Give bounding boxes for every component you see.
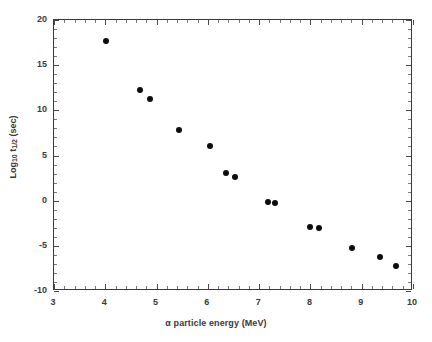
x-axis-minor-tick [75,286,76,289]
x-axis-major-tick [105,284,106,289]
y-axis-minor-tick [54,183,57,184]
y-axis-minor-tick [54,137,57,138]
y-axis-minor-tick [408,174,411,175]
y-axis-major-tick [406,201,411,202]
x-axis-minor-tick [372,286,373,289]
x-axis-minor-tick [290,20,291,23]
x-axis-minor-tick [75,20,76,23]
x-axis-minor-tick [239,286,240,289]
y-axis-minor-tick [408,38,411,39]
data-point [207,143,213,149]
x-axis-minor-tick [280,20,281,23]
x-axis-tick-label: 5 [153,297,158,307]
x-axis-minor-tick [187,20,188,23]
y-axis-minor-tick [408,119,411,120]
x-axis-minor-tick [269,20,270,23]
y-axis-major-tick [54,20,59,21]
x-axis-minor-tick [116,20,117,23]
x-axis-major-tick [310,284,311,289]
y-axis-tick-label: 20 [15,14,47,24]
x-axis-minor-tick [146,20,147,23]
x-axis-minor-tick [218,286,219,289]
y-axis-tick-label: 5 [15,150,47,160]
x-axis-major-tick [208,20,209,25]
x-axis-minor-tick [85,286,86,289]
y-axis-major-tick [54,201,59,202]
data-point [103,38,109,44]
x-axis-minor-tick [351,20,352,23]
y-axis-minor-tick [54,83,57,84]
y-axis-minor-tick [408,219,411,220]
y-axis-minor-tick [408,74,411,75]
y-axis-major-tick [54,110,59,111]
y-axis-title: Log10 t1/2 (sec) [8,87,18,207]
y-axis-minor-tick [54,119,57,120]
y-axis-title-suffix: (sec) [8,115,18,139]
y-axis-major-tick [54,156,59,157]
y-axis-minor-tick [54,192,57,193]
y-axis-minor-tick [54,128,57,129]
x-axis-minor-tick [177,20,178,23]
data-point [147,96,153,102]
x-axis-major-tick [413,20,414,25]
data-point [232,174,238,180]
y-axis-minor-tick [408,101,411,102]
data-point [137,87,143,93]
x-axis-minor-tick [331,20,332,23]
y-axis-minor-tick [54,174,57,175]
plot-area [53,19,412,290]
y-axis-minor-tick [408,137,411,138]
x-axis-minor-tick [64,286,65,289]
x-axis-minor-tick [392,286,393,289]
x-axis-tick-label: 6 [204,297,209,307]
y-axis-minor-tick [408,56,411,57]
y-axis-minor-tick [408,29,411,30]
x-axis-minor-tick [64,20,65,23]
x-axis-minor-tick [321,20,322,23]
x-axis-major-tick [362,20,363,25]
data-point [307,224,313,230]
y-axis-major-tick [406,110,411,111]
y-axis-minor-tick [54,282,57,283]
y-axis-tick-label: 0 [15,195,47,205]
x-axis-minor-tick [85,20,86,23]
x-axis-minor-tick [126,286,127,289]
y-axis-minor-tick [408,255,411,256]
y-axis-major-tick [406,291,411,292]
x-axis-tick-label: 10 [407,297,417,307]
x-axis-tick-label: 3 [50,297,55,307]
y-axis-minor-tick [54,255,57,256]
x-axis-minor-tick [351,286,352,289]
y-axis-major-tick [406,20,411,21]
y-axis-minor-tick [408,264,411,265]
x-axis-major-tick [208,284,209,289]
x-axis-minor-tick [177,286,178,289]
y-axis-major-tick [406,156,411,157]
y-axis-minor-tick [54,47,57,48]
x-axis-minor-tick [167,286,168,289]
x-axis-major-tick [310,20,311,25]
y-axis-minor-tick [408,282,411,283]
data-point [265,199,271,205]
y-axis-minor-tick [408,83,411,84]
x-axis-minor-tick [136,286,137,289]
y-axis-title-sub-half: 1/2 [11,139,18,149]
x-axis-minor-tick [269,286,270,289]
x-axis-major-tick [157,284,158,289]
y-axis-minor-tick [54,228,57,229]
y-axis-tick-label: -10 [15,285,47,295]
y-axis-minor-tick [408,165,411,166]
x-axis-minor-tick [239,20,240,23]
x-axis-minor-tick [382,20,383,23]
y-axis-tick-label: 15 [15,59,47,69]
data-point [393,263,399,269]
x-axis-major-tick [105,20,106,25]
data-point [377,254,383,260]
y-axis-minor-tick [408,228,411,229]
x-axis-minor-tick [403,286,404,289]
x-axis-major-tick [259,284,260,289]
x-axis-tick-label: 9 [358,297,363,307]
x-axis-minor-tick [136,20,137,23]
x-axis-minor-tick [341,20,342,23]
x-axis-major-tick [413,284,414,289]
